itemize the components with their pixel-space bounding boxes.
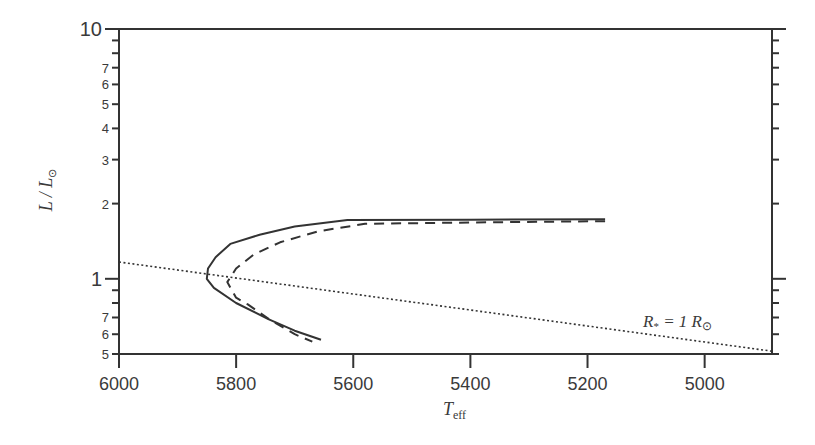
y-major-tick-label: 1 xyxy=(91,268,102,290)
y-minor-tick-label: 6 xyxy=(102,327,109,342)
series-solid-track xyxy=(207,219,605,339)
y-axis-ticks: 110567234567 xyxy=(80,18,786,362)
y-axis-title: L / L⊙ xyxy=(36,169,58,213)
y-minor-tick-label: 7 xyxy=(102,61,109,76)
series-dashed-track xyxy=(227,221,605,342)
y-minor-tick-label: 7 xyxy=(102,310,109,325)
series-group xyxy=(119,219,772,351)
plot-frame xyxy=(119,29,772,354)
x-tick-label: 5600 xyxy=(333,374,373,394)
x-tick-label: 5200 xyxy=(567,374,607,394)
y-minor-tick-label: 5 xyxy=(102,97,109,112)
y-major-tick-label: 10 xyxy=(80,18,102,40)
x-tick-label: 5400 xyxy=(450,374,490,394)
x-tick-label: 5000 xyxy=(685,374,725,394)
plot-border xyxy=(119,29,772,354)
y-minor-tick-label: 4 xyxy=(102,121,109,136)
x-axis-ticks: 600058005600540052005000 xyxy=(99,354,725,394)
y-minor-tick-label: 6 xyxy=(102,77,109,92)
x-axis-title: Teff xyxy=(443,399,466,422)
series-constant-radius-line xyxy=(119,262,772,351)
radius-annotation: R* = 1 R⊙ xyxy=(642,312,712,333)
y-minor-tick-label: 5 xyxy=(102,347,109,362)
x-tick-label: 6000 xyxy=(99,374,139,394)
x-tick-label: 5800 xyxy=(216,374,256,394)
y-minor-tick-label: 2 xyxy=(102,197,109,212)
y-minor-tick-label: 3 xyxy=(102,153,109,168)
hr-diagram-chart: 600058005600540052005000 110567234567 Te… xyxy=(0,0,815,445)
